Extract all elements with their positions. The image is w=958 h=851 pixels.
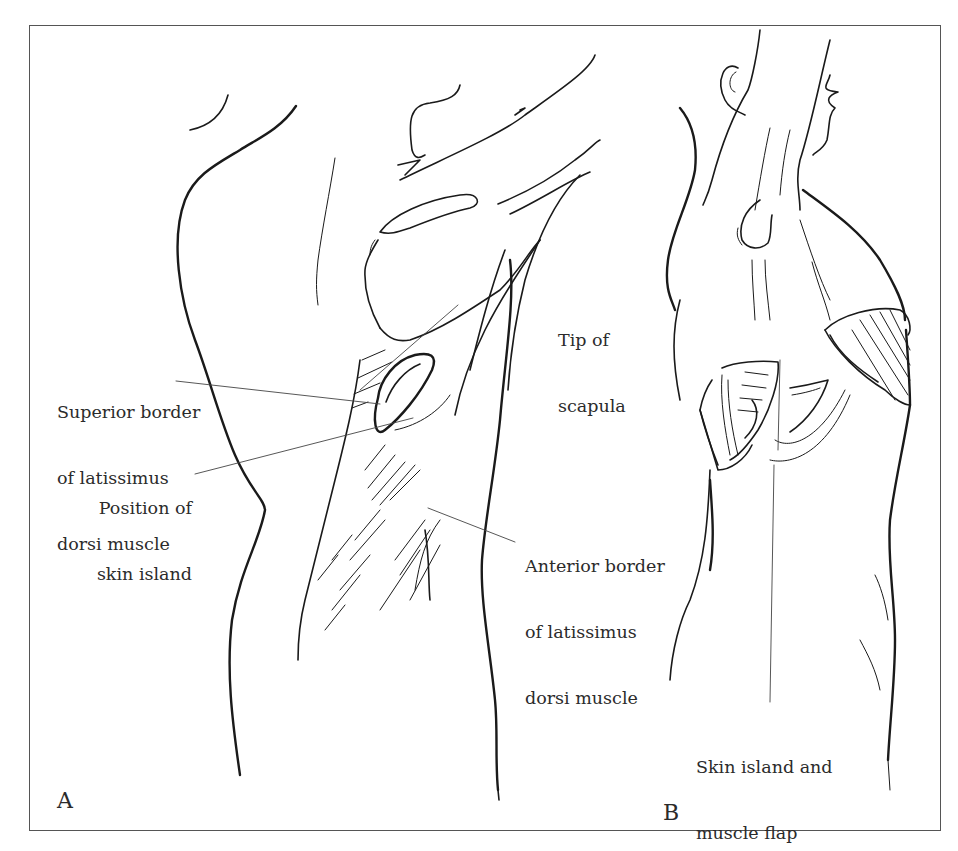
leader-lines [176,305,774,702]
panel-letter-b: B [663,800,679,825]
label-line: scapula [558,395,626,417]
label-anterior-border: Anterior border of latissimus dorsi musc… [525,511,665,731]
label-line: Position of [84,497,192,519]
label-line: dorsi muscle [525,687,665,709]
label-skin-island-flap: Skin island and muscle flap passed throu… [696,712,834,851]
panel-letter-a: A [57,788,73,813]
label-line: skin island [84,563,192,585]
label-line: Skin island and [696,756,834,778]
label-line: Tip of [558,329,626,351]
label-line: muscle flap [696,822,834,844]
label-tip-of-scapula: Tip of scapula [558,285,626,439]
label-skin-island-position: Position of skin island [84,453,192,607]
leader-superior-border [176,381,380,404]
label-line: Anterior border [525,555,665,577]
label-line: of latissimus [525,621,665,643]
leader-skin-island-flap [770,465,774,702]
label-line: Superior border [57,401,200,423]
leader-anterior-border [428,508,515,542]
panel-b-drawing [667,30,910,790]
leader-skin-island [195,418,413,474]
